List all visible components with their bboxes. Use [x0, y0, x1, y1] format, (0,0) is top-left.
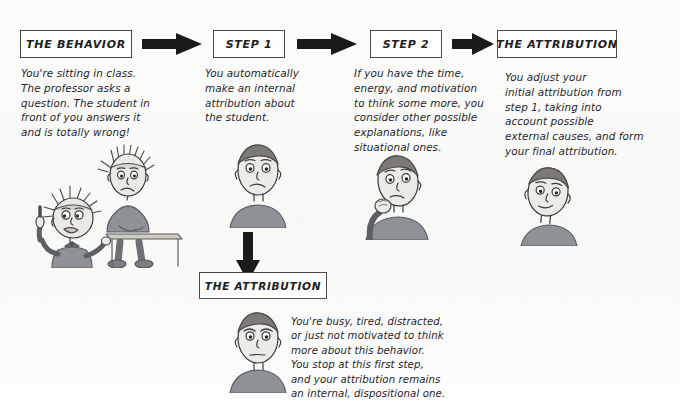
box-step-1: STEP 1 [213, 30, 285, 58]
right-arrow-icon [297, 33, 357, 55]
paragraph-step-1: You automatically make an internal attri… [205, 66, 355, 125]
illustration-classroom-scene [22, 138, 202, 268]
box-the-attribution-shortcut: THE ATTRIBUTION [199, 272, 327, 299]
paragraph-step-2: If you have the time, energy, and motiva… [354, 66, 514, 155]
box-step-1-label: STEP 1 [226, 38, 273, 51]
paragraph-the-attribution-shortcut: You're busy, tired, distracted, or just … [291, 315, 521, 402]
illustration-final-bust [505, 160, 591, 246]
final-bust-illustration [505, 160, 591, 246]
arrow-behavior-to-step-1 [142, 33, 202, 59]
shortcut-bust-illustration [216, 305, 300, 393]
box-the-attribution-final-label: THE ATTRIBUTION [496, 38, 617, 51]
paragraph-the-behavior: You're sitting in class. The professor a… [21, 66, 191, 140]
paragraph-the-attribution-final: You adjust your initial attribution from… [505, 70, 673, 159]
illustration-thinker-bust [348, 148, 444, 240]
student-bust-illustration [216, 136, 300, 228]
illustration-student-bust [216, 136, 300, 228]
arrow-step-1-to-step-2 [297, 33, 357, 59]
box-the-attribution-shortcut-label: THE ATTRIBUTION [205, 280, 321, 292]
box-the-behavior-label: THE BEHAVIOR [26, 38, 126, 51]
box-step-2: STEP 2 [370, 30, 442, 58]
thinker-bust-illustration [348, 148, 444, 240]
box-the-behavior: THE BEHAVIOR [20, 30, 132, 58]
illustration-shortcut-bust [216, 305, 300, 393]
classroom-scene-illustration [22, 138, 202, 268]
box-step-2-label: STEP 2 [383, 38, 430, 51]
arrow-step-2-to-attribution [452, 33, 494, 59]
right-arrow-icon [142, 33, 202, 55]
right-arrow-icon [452, 33, 494, 55]
diagram-canvas: THE BEHAVIOR STEP 1 STEP 2 THE ATTRIBUTI… [0, 0, 680, 403]
box-the-attribution-final: THE ATTRIBUTION [497, 30, 617, 58]
